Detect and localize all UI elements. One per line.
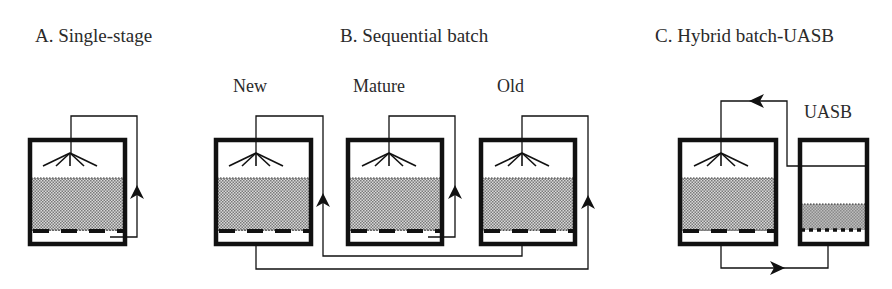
pipe-uasb-to-batch	[721, 101, 800, 166]
sprinkler-icon	[43, 153, 97, 166]
sprinkler-icon	[495, 153, 549, 166]
reactor-uasb	[800, 140, 867, 244]
reactor-label-new: New	[233, 76, 267, 96]
reactor-label-uasb: UASB	[804, 102, 852, 122]
reactor-old	[481, 140, 575, 244]
panel-a-title: A. Single-stage	[35, 25, 152, 46]
reactor-configurations-diagram: A. Single-stage B. Sequential batch C. H…	[0, 0, 892, 289]
panel-a-single-stage	[30, 116, 144, 244]
reactor-hybrid-batch	[680, 140, 776, 244]
sprinkler-icon	[362, 153, 416, 166]
reactor-new	[216, 140, 311, 244]
reactor-single-stage	[30, 140, 125, 244]
reactor-label-old: Old	[497, 76, 524, 96]
panel-b-sequential-batch	[216, 116, 595, 269]
panel-b-title: B. Sequential batch	[340, 25, 489, 46]
panel-c-title: C. Hybrid batch-UASB	[655, 25, 834, 46]
reactor-mature	[348, 140, 442, 244]
sprinkler-icon	[694, 153, 748, 166]
reactor-label-mature: Mature	[353, 76, 405, 96]
sprinkler-icon	[229, 153, 283, 166]
